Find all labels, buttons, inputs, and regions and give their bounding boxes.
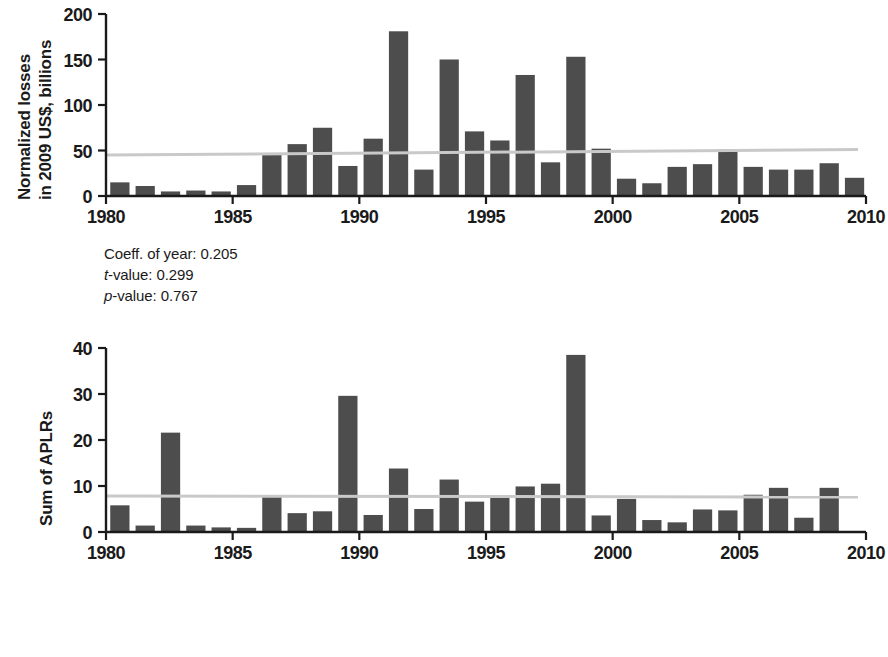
y-tick-label-150: 150 xyxy=(63,51,92,71)
trend-line xyxy=(106,496,858,497)
x-tick-label-1995: 1995 xyxy=(467,543,506,563)
bar-1988 xyxy=(313,128,332,196)
bar-2003 xyxy=(693,509,712,532)
bar-1998 xyxy=(566,355,585,532)
bar-1985 xyxy=(237,185,256,196)
x-tick-label-1985: 1985 xyxy=(214,543,253,563)
x-tick-label-2010: 2010 xyxy=(847,543,886,563)
x-tick-label-2000: 2000 xyxy=(594,543,633,563)
bar-1991 xyxy=(389,469,408,532)
bar-1988 xyxy=(313,511,332,532)
bar-2000 xyxy=(617,499,636,532)
x-tick-label-1990: 1990 xyxy=(340,207,379,227)
y-tick-label-0: 0 xyxy=(82,523,92,543)
bar-2008 xyxy=(820,488,839,532)
bar-2005 xyxy=(744,495,763,532)
plot-area-top: 1980198519901995200020052010050100150200 xyxy=(0,0,888,230)
bar-1999 xyxy=(592,149,611,196)
bar-2006 xyxy=(769,488,788,532)
bar-1980 xyxy=(110,182,129,196)
stat-tvalue-top: t-value: 0.299 xyxy=(104,264,238,285)
bar-2008 xyxy=(820,163,839,196)
x-tick-label-1990: 1990 xyxy=(340,543,379,563)
bar-1998 xyxy=(566,57,585,196)
bar-2007 xyxy=(794,170,813,196)
bar-1994 xyxy=(465,502,484,532)
figure-two-panel-bar-charts: Normalized losses in 2009 US$, billions … xyxy=(0,0,888,657)
bar-2004 xyxy=(718,510,737,532)
stat-tvalue-top-rest: -value: 0.299 xyxy=(108,266,193,283)
bar-1996 xyxy=(516,486,535,532)
bar-2002 xyxy=(668,522,687,532)
x-tick-label-1980: 1980 xyxy=(87,543,126,563)
bar-1986 xyxy=(262,155,281,196)
bar-1997 xyxy=(541,484,560,532)
bar-1987 xyxy=(288,513,307,532)
y-tick-label-40: 40 xyxy=(73,339,93,359)
bar-1990 xyxy=(364,515,383,532)
x-tick-label-2010: 2010 xyxy=(847,207,886,227)
bar-1989 xyxy=(338,396,357,532)
bar-1997 xyxy=(541,162,560,196)
bar-2009 xyxy=(845,178,864,196)
x-tick-label-1985: 1985 xyxy=(214,207,253,227)
bar-1992 xyxy=(414,509,433,532)
bar-2005 xyxy=(744,167,763,196)
y-tick-label-100: 100 xyxy=(63,96,92,116)
plot-area-bottom: 1980198519901995200020052010010203040 xyxy=(0,330,888,565)
bar-2002 xyxy=(668,167,687,196)
bar-1990 xyxy=(364,139,383,196)
bar-2004 xyxy=(718,150,737,196)
x-tick-label-2005: 2005 xyxy=(720,543,759,563)
stats-block-top: Coeff. of year: 0.205 t-value: 0.299 p-v… xyxy=(104,243,238,306)
stat-pvalue-top-rest: -value: 0.767 xyxy=(112,287,197,304)
bar-1993 xyxy=(440,60,459,197)
y-tick-label-10: 10 xyxy=(73,477,93,497)
bar-1992 xyxy=(414,170,433,196)
stat-pvalue-top: p-value: 0.767 xyxy=(104,285,238,306)
bar-1995 xyxy=(490,140,509,196)
y-tick-label-20: 20 xyxy=(73,431,93,451)
y-tick-label-0: 0 xyxy=(82,187,92,207)
panel-sum-of-aplrs: Sum of APLRs 198019851990199520002005201… xyxy=(0,330,888,657)
bar-1996 xyxy=(516,75,535,196)
bar-1980 xyxy=(110,505,129,532)
bar-2003 xyxy=(693,164,712,196)
bar-1999 xyxy=(592,515,611,532)
bar-1986 xyxy=(262,496,281,532)
bar-2006 xyxy=(769,170,788,196)
bar-1993 xyxy=(440,480,459,532)
y-tick-label-200: 200 xyxy=(63,5,92,25)
panel-normalized-losses: Normalized losses in 2009 US$, billions … xyxy=(0,0,888,330)
y-tick-label-50: 50 xyxy=(73,142,93,162)
bar-1994 xyxy=(465,131,484,196)
x-tick-label-1995: 1995 xyxy=(467,207,506,227)
bar-2007 xyxy=(794,518,813,532)
stat-coeff-top: Coeff. of year: 0.205 xyxy=(104,243,238,264)
bar-1991 xyxy=(389,31,408,196)
x-tick-label-1980: 1980 xyxy=(87,207,126,227)
bar-1987 xyxy=(288,144,307,196)
bar-2001 xyxy=(642,183,661,196)
bar-1981 xyxy=(136,186,155,196)
bar-2001 xyxy=(642,520,661,532)
bar-1989 xyxy=(338,166,357,196)
bar-1995 xyxy=(490,496,509,532)
bar-2000 xyxy=(617,179,636,196)
y-tick-label-30: 30 xyxy=(73,385,93,405)
bar-1982 xyxy=(161,433,180,532)
x-tick-label-2000: 2000 xyxy=(594,207,633,227)
x-tick-label-2005: 2005 xyxy=(720,207,759,227)
